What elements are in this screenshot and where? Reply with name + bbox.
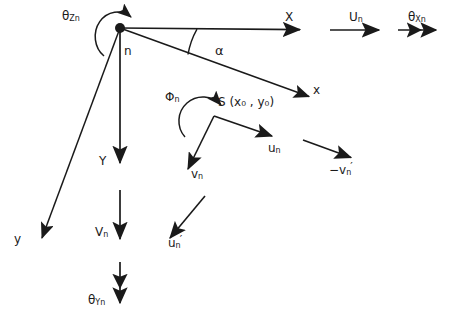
theta-zn-label: θZn <box>62 10 80 23</box>
global-x-axis-label: X <box>285 11 293 23</box>
un-prime-label: un′ <box>168 234 182 250</box>
local-un-label: un <box>268 142 281 155</box>
local-vn-label: vn <box>191 168 203 181</box>
diagram-canvas <box>0 0 460 333</box>
global-x-axis-arrow <box>120 28 300 30</box>
theta-yn-label: θYn <box>88 294 105 307</box>
minus-vn-prime-label: −vn′ <box>329 161 353 177</box>
origin-node-dot <box>115 23 125 33</box>
origin-node-label: n <box>124 45 132 57</box>
local-y-axis-arrow <box>42 28 120 238</box>
un-prime-vector-arrow <box>170 196 205 238</box>
theta-xn-label: θXn <box>408 11 426 24</box>
minus-vn-prime-vector-arrow <box>303 140 351 158</box>
section-point-label: S (x₀ , y₀) <box>218 96 274 108</box>
un-label: Un <box>349 11 363 24</box>
global-y-axis-label: Y <box>99 155 106 167</box>
local-vn-axis-arrow <box>188 116 214 169</box>
vn-label: Vn <box>95 226 108 239</box>
diagram-root: θZn n α X Un θXn x Φn S (x₀ , y₀) un vn … <box>0 0 460 333</box>
local-un-axis-arrow <box>214 116 272 136</box>
phi-n-label: Φn <box>165 91 180 104</box>
alpha-label: α <box>215 44 224 57</box>
alpha-angle-arc <box>188 29 197 54</box>
local-x-axis-arrow <box>120 28 309 97</box>
local-x-axis-label: x <box>313 84 320 96</box>
local-y-axis-label: y <box>14 233 21 245</box>
